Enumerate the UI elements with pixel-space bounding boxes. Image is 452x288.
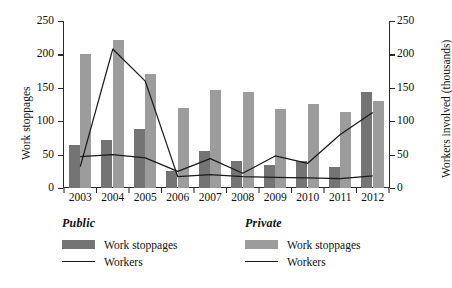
x-axis-label: 2012 bbox=[357, 191, 390, 203]
axis-tick-label: 50 bbox=[14, 149, 54, 161]
x-axis-label: 2011 bbox=[324, 191, 357, 203]
plot-area: 050100150200250 050100150200250 20032004… bbox=[64, 21, 389, 188]
axis-tick-label: 0 bbox=[397, 182, 437, 194]
legend-line-private bbox=[245, 261, 278, 262]
axis-tick bbox=[390, 54, 395, 55]
legend-label-public-line: Workers bbox=[104, 256, 143, 268]
y-axis-right-title: Workers involved (thousands) bbox=[440, 40, 452, 178]
x-axis-label: 2008 bbox=[227, 191, 260, 203]
axis-tick bbox=[390, 88, 395, 89]
axis-tick-label: 0 bbox=[14, 182, 54, 194]
axis-tick-label: 150 bbox=[14, 82, 54, 94]
x-axis-label: 2010 bbox=[292, 191, 325, 203]
axis-tick-label: 100 bbox=[397, 115, 437, 127]
x-axis-label: 2006 bbox=[162, 191, 195, 203]
chart-legend: Public Work stoppages Workers Private Wo… bbox=[0, 216, 447, 278]
axis-tick bbox=[58, 121, 63, 122]
legend-group-private: Private Work stoppages Workers bbox=[245, 216, 361, 270]
axis-tick bbox=[58, 54, 63, 55]
axis-tick bbox=[390, 121, 395, 122]
line-private-workers bbox=[80, 49, 373, 179]
axis-tick-label: 200 bbox=[397, 48, 437, 60]
axis-tick bbox=[390, 21, 395, 22]
x-axis-label: 2003 bbox=[64, 191, 97, 203]
x-axis-label: 2004 bbox=[97, 191, 130, 203]
legend-item-private-bars: Work stoppages bbox=[245, 236, 361, 253]
legend-swatch-private-bar bbox=[245, 240, 278, 249]
axis-tick-label: 100 bbox=[14, 115, 54, 127]
line-group bbox=[64, 21, 389, 188]
line-public-workers bbox=[80, 113, 373, 174]
axis-tick bbox=[58, 155, 63, 156]
legend-item-private-line: Workers bbox=[245, 253, 361, 270]
axis-tick bbox=[58, 88, 63, 89]
legend-label-private-line: Workers bbox=[287, 256, 326, 268]
axis-tick bbox=[58, 21, 63, 22]
legend-swatch-public-bar bbox=[62, 240, 95, 249]
axis-tick-label: 200 bbox=[14, 48, 54, 60]
legend-item-public-line: Workers bbox=[62, 253, 178, 270]
axis-tick-label: 150 bbox=[397, 82, 437, 94]
axis-tick-label: 250 bbox=[397, 15, 437, 27]
legend-title-private: Private bbox=[245, 216, 361, 231]
axis-tick-label: 50 bbox=[397, 149, 437, 161]
legend-group-public: Public Work stoppages Workers bbox=[62, 216, 178, 270]
x-axis-label: 2005 bbox=[129, 191, 162, 203]
axis-tick bbox=[390, 155, 395, 156]
x-axis-label: 2007 bbox=[194, 191, 227, 203]
legend-item-public-bars: Work stoppages bbox=[62, 236, 178, 253]
legend-label-private-bar: Work stoppages bbox=[287, 239, 361, 251]
axis-tick-label: 250 bbox=[14, 15, 54, 27]
axis-tick bbox=[58, 188, 63, 189]
y-axis-right-line bbox=[389, 21, 390, 188]
x-axis-label: 2009 bbox=[259, 191, 292, 203]
axis-tick bbox=[390, 188, 395, 189]
legend-label-public-bar: Work stoppages bbox=[104, 239, 178, 251]
legend-line-public bbox=[62, 261, 95, 262]
legend-title-public: Public bbox=[62, 216, 178, 231]
